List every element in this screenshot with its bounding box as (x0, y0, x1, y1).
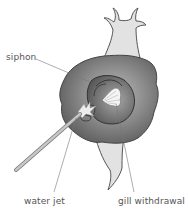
water-jet-label: water jet (24, 196, 65, 206)
water-jet-tube-highlight (16, 114, 80, 170)
head (104, 8, 146, 58)
aplysia-diagram (0, 0, 188, 212)
gill-withdrawal-label: gill withdrawal (118, 196, 185, 206)
siphon-label: siphon (6, 52, 36, 62)
tail (96, 138, 124, 190)
